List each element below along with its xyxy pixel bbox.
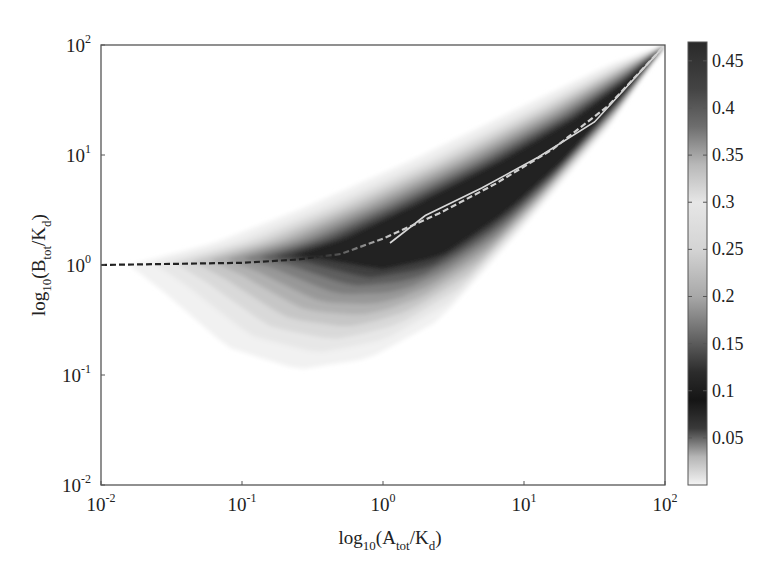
colorbar-tick-label: 0.45: [712, 51, 744, 71]
y-axis-ticks: 10210110010-110-2: [62, 32, 105, 496]
colorbar-tick-label: 0.2: [712, 286, 735, 306]
x-tick-label: 101: [512, 491, 537, 515]
y-tick-label: 102: [66, 32, 91, 56]
x-axis-ticks: 10-210-1100101102: [87, 481, 678, 515]
y-tick-label: 101: [66, 142, 91, 166]
contour-figure: 10-210-1100101102 10210110010-110-2 log1…: [0, 0, 779, 583]
x-tick-label: 10-2: [87, 491, 116, 515]
colorbar-tick-label: 0.3: [712, 192, 735, 212]
y-tick-label: 100: [66, 252, 91, 276]
y-axis-label: log10(Btot/Kd): [28, 214, 54, 316]
x-tick-label: 10-1: [228, 491, 257, 515]
y-tick-label: 10-2: [62, 472, 91, 496]
colorbar-tick-label: 0.25: [712, 239, 744, 259]
y-tick-label: 10-1: [62, 362, 91, 386]
colorbar-tick-label: 0.15: [712, 334, 744, 354]
colorbar-tick-label: 0.1: [712, 381, 735, 401]
x-tick-label: 102: [653, 491, 678, 515]
colorbar-tick-label: 0.4: [712, 98, 735, 118]
colorbar-tick-label: 0.35: [712, 145, 744, 165]
x-axis-label: log10(Atot/Kd): [339, 527, 442, 553]
colorbar-tick-label: 0.05: [712, 428, 744, 448]
x-tick-label: 100: [371, 491, 396, 515]
